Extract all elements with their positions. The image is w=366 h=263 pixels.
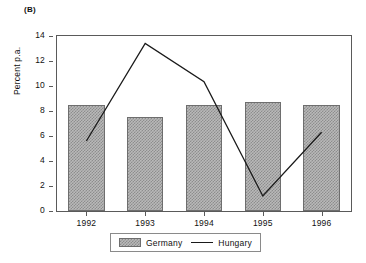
x-axis-tick-mark — [204, 212, 205, 216]
y-axis-tick-label: 12 — [35, 55, 45, 65]
x-axis-tick-mark — [322, 212, 323, 216]
y-axis-tick-label: 8 — [40, 105, 45, 115]
chart-figure: (B) Percent p.a. 02468101214 19921993199… — [0, 0, 366, 263]
x-axis-tick-label: 1995 — [253, 218, 273, 228]
line-series-hungary — [57, 36, 351, 211]
x-axis-tick-label: 1994 — [194, 218, 214, 228]
plot-inner — [57, 36, 351, 211]
legend-entry-germany: Germany — [119, 238, 182, 248]
bar-swatch-icon — [119, 238, 141, 247]
y-axis-tick-label: 6 — [40, 130, 45, 140]
x-axis-tick-label: 1993 — [135, 218, 155, 228]
line-swatch-icon — [191, 242, 213, 243]
y-axis-tick-label: 14 — [35, 30, 45, 40]
y-axis-tick-mark — [49, 36, 53, 37]
y-axis-tick-mark — [49, 86, 53, 87]
y-axis-tick-label: 2 — [40, 180, 45, 190]
x-axis-tick-label: 1992 — [77, 218, 97, 228]
plot-area — [56, 35, 352, 212]
y-axis-tick-mark — [49, 211, 53, 212]
x-axis-tick-mark — [263, 212, 264, 216]
hungary-polyline — [86, 44, 321, 197]
panel-label: (B) — [24, 5, 36, 14]
legend-label-germany: Germany — [146, 238, 182, 248]
legend-entry-hungary: Hungary — [191, 238, 252, 248]
y-axis-tick-label: 0 — [40, 205, 45, 215]
x-axis-tick-mark — [145, 212, 146, 216]
y-axis-title: Percent p.a. — [12, 5, 22, 95]
y-axis-tick-label: 4 — [40, 155, 45, 165]
x-axis-tick-label: 1996 — [312, 218, 332, 228]
x-axis-tick-mark — [86, 212, 87, 216]
y-axis-tick-mark — [49, 136, 53, 137]
y-axis-tick-mark — [49, 111, 53, 112]
y-axis-tick-mark — [49, 186, 53, 187]
legend-label-hungary: Hungary — [218, 238, 252, 248]
y-axis-tick-label: 10 — [35, 80, 45, 90]
y-axis-tick-mark — [49, 61, 53, 62]
chart-legend: Germany Hungary — [110, 233, 261, 252]
y-axis-tick-mark — [49, 161, 53, 162]
